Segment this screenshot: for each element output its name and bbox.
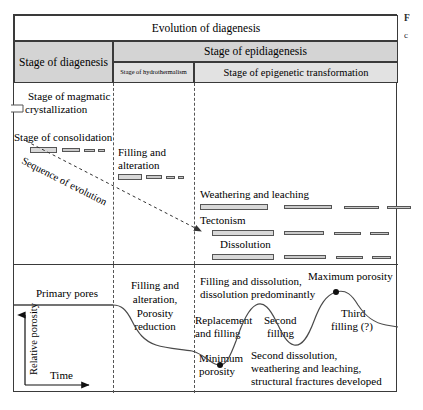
weathering-bar-2: [284, 205, 332, 209]
header-stage-of-hydrothermalism: Stage of hydrothermalism: [113, 62, 194, 83]
marker-maximum-porosity: [333, 289, 339, 295]
sequence-of-evolution-arrow: [14, 83, 398, 264]
weathering-bar-3: [344, 206, 379, 209]
label-relative-porosity-axis: Relative porosity: [28, 303, 40, 375]
weathering-bar-4: [387, 206, 411, 209]
diagenesis-evolution-figure: Evolution of diagenesis Stage of diagene…: [13, 14, 397, 392]
header-stage-of-diagenesis: Stage of diagenesis: [14, 41, 113, 83]
label-dissolution: Dissolution: [220, 238, 271, 251]
caption-fragment-line1: F: [404, 13, 410, 23]
marker-minimum-porosity: [217, 362, 223, 368]
label-tectonism: Tectonism: [200, 214, 246, 227]
middle-process-panel: Stage of magmatic crystallization Stage …: [14, 83, 398, 264]
header-stage-of-epidiagenesis: Stage of epidiagenesis: [113, 41, 398, 62]
header-stage-of-epigenetic-transformation: Stage of epigenetic transformation: [194, 62, 398, 83]
weathering-bar-1: [200, 204, 268, 210]
dissolution-bar-4: [372, 256, 391, 259]
caption-fragment: F c: [404, 9, 423, 44]
header-evolution-of-diagenesis: Evolution of diagenesis: [14, 15, 398, 41]
dissolution-bar-1: [212, 254, 274, 260]
tectonism-bar-2: [284, 231, 324, 235]
label-time-axis: Time: [50, 369, 73, 382]
dissolution-bar-3: [336, 256, 363, 259]
porosity-curve-panel: Primary pores Filling and alteration, Po…: [14, 264, 398, 392]
dissolution-bar-2: [284, 255, 326, 259]
caption-fragment-line2: c: [404, 27, 423, 44]
tectonism-bar-4: [370, 232, 389, 235]
tectonism-bar-3: [334, 232, 361, 235]
label-weathering-and-leaching: Weathering and leaching: [200, 188, 309, 201]
tectonism-bar-1: [212, 230, 274, 236]
